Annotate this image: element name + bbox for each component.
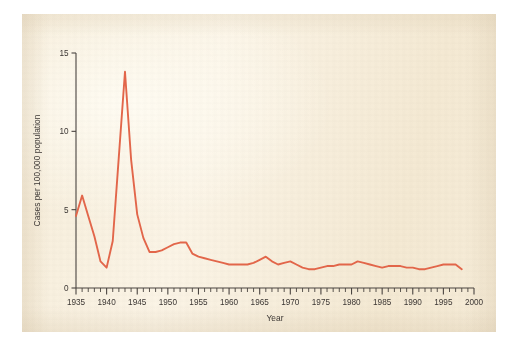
x-tick-label: 1980 — [342, 298, 361, 307]
y-axis-tick-labels: 051015 — [59, 49, 69, 293]
y-axis: 051015 — [59, 49, 76, 293]
x-tick-label: 1965 — [251, 298, 270, 307]
y-tick-label: 10 — [59, 127, 69, 136]
y-tick-label: 0 — [64, 284, 69, 293]
x-axis-title: Year — [267, 313, 284, 323]
x-tick-label: 1955 — [189, 298, 208, 307]
y-axis-ticks — [72, 53, 77, 288]
x-tick-label: 1960 — [220, 298, 239, 307]
y-tick-label: 15 — [59, 49, 69, 58]
line-chart-plot: 051015 193519401945195019551960196519701… — [0, 0, 521, 350]
x-tick-label: 1985 — [373, 298, 392, 307]
x-axis-tick-labels: 1935194019451950195519601965197019751980… — [67, 298, 484, 307]
x-tick-label: 1995 — [434, 298, 453, 307]
x-tick-label: 1950 — [159, 298, 178, 307]
y-axis-title: Cases per 100,000 population — [32, 114, 42, 226]
y-tick-label: 5 — [64, 206, 69, 215]
x-axis-minor-ticks — [82, 288, 468, 292]
x-tick-label: 1935 — [67, 298, 86, 307]
figure-root: 051015 193519401945195019551960196519701… — [0, 0, 521, 350]
x-tick-label: 1940 — [98, 298, 117, 307]
x-tick-label: 1975 — [312, 298, 331, 307]
x-axis: 1935194019451950195519601965197019751980… — [67, 288, 484, 307]
x-tick-label: 1990 — [404, 298, 423, 307]
x-tick-label: 1945 — [128, 298, 147, 307]
data-series-line — [76, 72, 462, 269]
x-tick-label: 1970 — [281, 298, 300, 307]
x-axis-major-ticks — [76, 288, 474, 295]
x-tick-label: 2000 — [465, 298, 484, 307]
